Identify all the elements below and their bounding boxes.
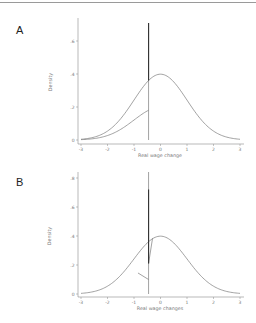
y-tick-label: .8 (70, 176, 74, 181)
x-axis-title-b: Real wage changes (137, 306, 184, 311)
x-tick-label: 1 (186, 147, 189, 152)
y-tick-label: .6 (70, 205, 74, 210)
y-tick-label: 0 (72, 292, 75, 297)
x-tick-label: -1 (132, 147, 137, 152)
chart-panel-b: 0.2.4.6.8-3-2-10123 Real wage changes De… (0, 160, 256, 323)
axes-b: 0.2.4.6.8-3-2-10123 (70, 172, 244, 305)
x-tick-label: -3 (79, 300, 84, 305)
y-tick-label: .2 (70, 263, 74, 268)
chart-panel-a: 0.2.4.6-3-2-10123 Real wage change Densi… (0, 0, 256, 160)
rise-segment (149, 238, 153, 263)
dip-segment (138, 273, 149, 280)
x-tick-label: 1 (186, 300, 189, 305)
x-tick-label: 2 (212, 147, 215, 152)
normal-density-curve (81, 74, 240, 139)
x-tick-label: -2 (105, 147, 110, 152)
y-tick-label: .6 (70, 39, 74, 44)
plot-area-a (81, 23, 240, 140)
x-tick-label: 2 (212, 300, 215, 305)
y-axis-title-b: Density (47, 227, 52, 245)
x-tick-label: -2 (105, 300, 110, 305)
x-tick-label: -3 (79, 147, 84, 152)
x-tick-label: 0 (159, 300, 162, 305)
x-axis-title-a: Real wage change (138, 153, 182, 158)
axes-a: 0.2.4.6-3-2-10123 (70, 18, 244, 152)
x-tick-label: 3 (239, 147, 242, 152)
y-tick-label: .4 (70, 72, 74, 77)
y-axis-title-a: Density (48, 73, 53, 91)
plot-area-b (81, 172, 240, 294)
x-tick-label: 0 (159, 147, 162, 152)
y-tick-label: 0 (72, 138, 75, 143)
y-tick-label: .2 (70, 105, 74, 110)
x-tick-label: 3 (239, 300, 242, 305)
x-tick-label: -1 (132, 300, 137, 305)
normal-density-curve (81, 236, 240, 293)
y-tick-label: .4 (70, 234, 74, 239)
